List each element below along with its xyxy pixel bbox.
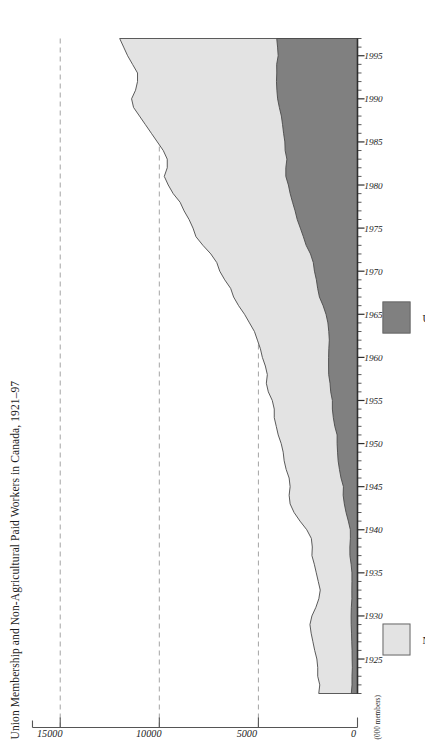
rotated-chart-canvas: Union Membership and Non-Agricultural Pa… <box>0 0 425 755</box>
chart-page: Union Membership and Non-Agricultural Pa… <box>0 0 425 755</box>
area-chart-svg <box>30 38 357 693</box>
value-axis-tick-label: 10000 <box>135 728 157 739</box>
legend-item: Non-Agricultural Paid Workers <box>382 623 425 655</box>
legend-swatch <box>382 623 410 655</box>
value-axis-unit-label: (000 members) <box>372 695 381 739</box>
chart-legend: Non-Agricultural Paid WorkersUnion Membe… <box>382 38 422 693</box>
value-axis-tick-label: 0 <box>334 728 356 739</box>
page-title: Union Membership and Non-Agricultural Pa… <box>8 380 20 739</box>
value-axis-tick-label: 15000 <box>36 728 58 739</box>
legend-swatch <box>382 301 410 333</box>
legend-item: Union Membership <box>382 301 425 333</box>
plot-area <box>30 38 357 693</box>
value-axis-tick-label: 5000 <box>234 728 256 739</box>
